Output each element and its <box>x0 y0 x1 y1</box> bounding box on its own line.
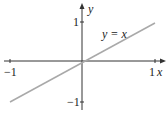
x-tick-label-neg: −1 <box>4 65 17 79</box>
plot-area: y x −1 1 1 −1 y = x <box>0 0 167 113</box>
curve-label: y = x <box>101 27 127 41</box>
y-tick-label-neg: −1 <box>67 95 80 109</box>
x-tick-label-pos: 1 <box>149 65 155 79</box>
y-axis-arrow-icon <box>80 3 85 9</box>
y-axis-label: y <box>87 2 94 16</box>
y-tick-label-pos: 1 <box>73 15 79 29</box>
x-axis-arrow-icon <box>160 59 166 64</box>
x-axis-label: x <box>156 65 163 79</box>
